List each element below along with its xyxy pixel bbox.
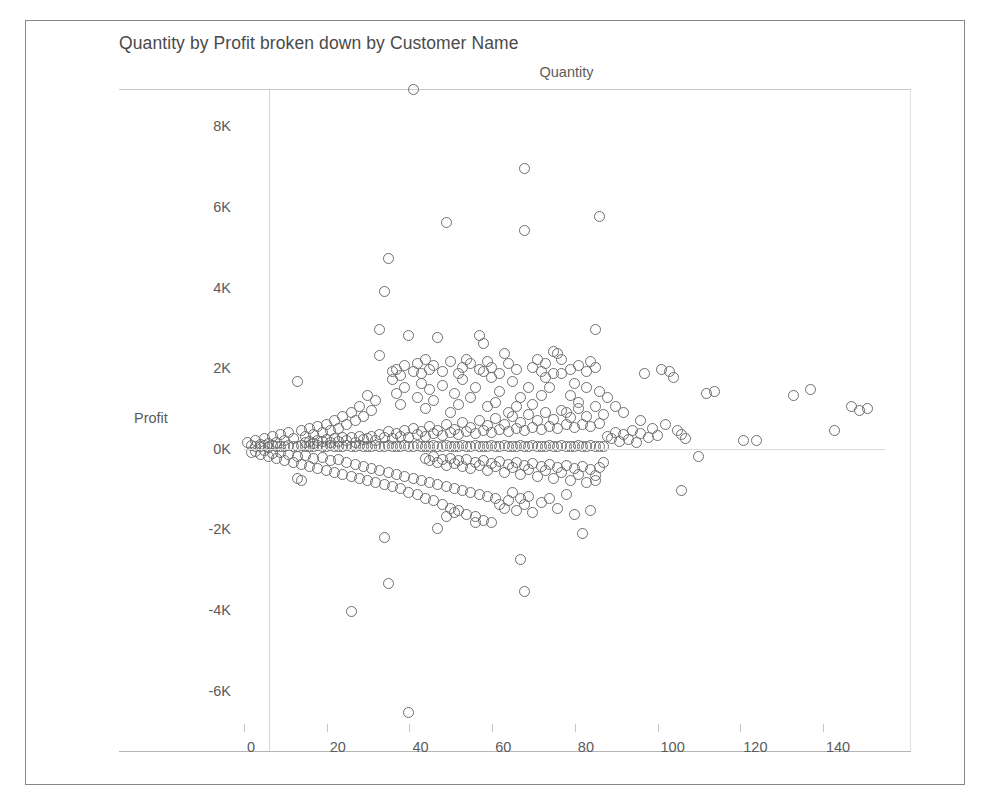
scatter-point[interactable]: [457, 417, 468, 428]
scatter-point[interactable]: [403, 487, 414, 498]
scatter-point[interactable]: [470, 457, 481, 468]
scatter-point[interactable]: [457, 461, 468, 472]
scatter-point[interactable]: [610, 401, 621, 412]
scatter-point[interactable]: [312, 463, 323, 474]
scatter-point[interactable]: [383, 426, 394, 437]
scatter-point[interactable]: [420, 354, 431, 365]
scatter-point[interactable]: [561, 460, 572, 471]
scatter-point[interactable]: [424, 421, 435, 432]
scatter-point[interactable]: [341, 435, 352, 446]
scatter-point[interactable]: [519, 586, 530, 597]
scatter-point[interactable]: [437, 380, 448, 391]
scatter-point[interactable]: [432, 441, 443, 452]
scatter-point[interactable]: [490, 461, 501, 472]
scatter-point[interactable]: [701, 388, 712, 399]
scatter-point[interactable]: [362, 441, 373, 452]
scatter-point[interactable]: [379, 479, 390, 490]
scatter-point[interactable]: [540, 441, 551, 452]
scatter-point[interactable]: [556, 405, 567, 416]
scatter-point[interactable]: [581, 382, 592, 393]
scatter-point[interactable]: [660, 419, 671, 430]
scatter-point[interactable]: [552, 423, 563, 434]
scatter-point[interactable]: [490, 441, 501, 452]
scatter-point[interactable]: [461, 354, 472, 365]
scatter-point[interactable]: [358, 411, 369, 422]
scatter-point[interactable]: [374, 429, 385, 440]
scatter-point[interactable]: [337, 411, 348, 422]
scatter-point[interactable]: [424, 455, 435, 466]
scatter-point[interactable]: [507, 487, 518, 498]
scatter-point[interactable]: [374, 465, 385, 476]
scatter-point[interactable]: [395, 431, 406, 442]
scatter-point[interactable]: [441, 481, 452, 492]
scatter-point[interactable]: [445, 503, 456, 514]
scatter-point[interactable]: [565, 412, 576, 423]
scatter-point[interactable]: [829, 425, 840, 436]
scatter-point[interactable]: [416, 368, 427, 379]
scatter-point[interactable]: [370, 395, 381, 406]
scatter-point[interactable]: [275, 429, 286, 440]
scatter-point[interactable]: [408, 423, 419, 434]
scatter-point[interactable]: [279, 441, 290, 452]
scatter-point[interactable]: [590, 362, 601, 373]
scatter-point[interactable]: [503, 407, 514, 418]
scatter-point[interactable]: [503, 426, 514, 437]
scatter-point[interactable]: [275, 441, 286, 452]
scatter-point[interactable]: [594, 441, 605, 452]
scatter-point[interactable]: [341, 419, 352, 430]
scatter-point[interactable]: [519, 225, 530, 236]
scatter-point[interactable]: [321, 441, 332, 452]
scatter-point[interactable]: [523, 464, 534, 475]
scatter-point[interactable]: [354, 473, 365, 484]
scatter-point[interactable]: [296, 475, 307, 486]
scatter-point[interactable]: [490, 493, 501, 504]
scatter-point[interactable]: [437, 366, 448, 377]
scatter-point[interactable]: [333, 441, 344, 452]
scatter-point[interactable]: [585, 356, 596, 367]
scatter-point[interactable]: [416, 426, 427, 437]
scatter-point[interactable]: [590, 441, 601, 452]
scatter-point[interactable]: [573, 360, 584, 371]
scatter-point[interactable]: [308, 441, 319, 452]
scatter-point[interactable]: [565, 475, 576, 486]
scatter-point[interactable]: [395, 483, 406, 494]
scatter-point[interactable]: [556, 368, 567, 379]
scatter-point[interactable]: [412, 392, 423, 403]
scatter-point[interactable]: [465, 422, 476, 433]
scatter-point[interactable]: [441, 460, 452, 471]
scatter-point[interactable]: [519, 460, 530, 471]
scatter-point[interactable]: [602, 431, 613, 442]
scatter-point[interactable]: [598, 409, 609, 420]
scatter-point[interactable]: [362, 433, 373, 444]
scatter-point[interactable]: [350, 459, 361, 470]
scatter-point[interactable]: [432, 479, 443, 490]
scatter-point[interactable]: [300, 441, 311, 452]
scatter-point[interactable]: [494, 386, 505, 397]
scatter-point[interactable]: [300, 437, 311, 448]
scatter-point[interactable]: [527, 362, 538, 373]
scatter-point[interactable]: [321, 465, 332, 476]
scatter-point[interactable]: [308, 438, 319, 449]
scatter-point[interactable]: [478, 515, 489, 526]
scatter-point[interactable]: [408, 473, 419, 484]
scatter-point[interactable]: [374, 350, 385, 361]
scatter-point[interactable]: [544, 382, 555, 393]
scatter-point[interactable]: [470, 511, 481, 522]
scatter-point[interactable]: [465, 358, 476, 369]
scatter-point[interactable]: [283, 427, 294, 438]
scatter-point[interactable]: [540, 465, 551, 476]
scatter-point[interactable]: [656, 364, 667, 375]
scatter-point[interactable]: [391, 469, 402, 480]
scatter-point[interactable]: [788, 390, 799, 401]
scatter-point[interactable]: [420, 441, 431, 452]
scatter-point[interactable]: [569, 441, 580, 452]
scatter-point[interactable]: [474, 489, 485, 500]
scatter-point[interactable]: [862, 403, 873, 414]
scatter-point[interactable]: [499, 467, 510, 478]
scatter-point[interactable]: [292, 376, 303, 387]
scatter-point[interactable]: [432, 523, 443, 534]
scatter-point[interactable]: [478, 366, 489, 377]
scatter-point[interactable]: [548, 346, 559, 357]
scatter-point[interactable]: [503, 495, 514, 506]
scatter-point[interactable]: [527, 458, 538, 469]
